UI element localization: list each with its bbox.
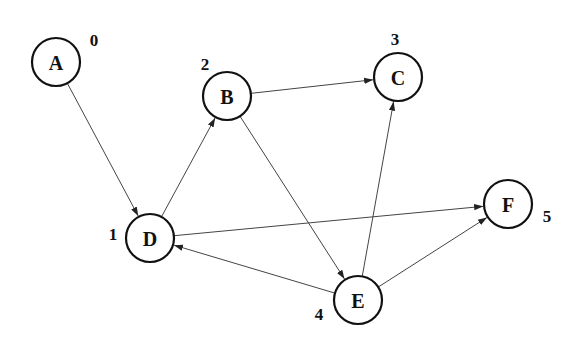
- edge-e-to-f: [378, 217, 487, 287]
- node-order-number: 4: [315, 305, 324, 324]
- node-label: E: [351, 290, 364, 312]
- node-label: B: [220, 86, 233, 108]
- node-a: A0: [32, 31, 98, 87]
- node-b: B2: [201, 55, 251, 121]
- edge-e-to-d: [174, 245, 335, 293]
- node-label: A: [49, 52, 64, 74]
- edge-d-to-f: [174, 206, 483, 235]
- node-d: D1: [109, 214, 174, 262]
- edge-b-to-c: [251, 80, 373, 94]
- edge-e-to-c: [362, 102, 393, 277]
- node-label: F: [502, 194, 514, 216]
- edge-d-to-b: [161, 118, 215, 217]
- edges-layer: [67, 80, 487, 293]
- node-label: C: [391, 67, 405, 89]
- node-order-number: 5: [543, 207, 552, 226]
- node-c: C3: [374, 30, 422, 102]
- node-order-number: 2: [201, 55, 210, 74]
- edge-b-to-e: [240, 116, 345, 279]
- node-order-number: 0: [90, 31, 99, 50]
- node-label: D: [143, 228, 157, 250]
- directed-graph-diagram: A0B2C3D1E4F5: [0, 0, 577, 342]
- node-f: F5: [484, 180, 551, 228]
- node-order-number: 1: [109, 225, 118, 244]
- edge-a-to-d: [67, 83, 138, 216]
- node-order-number: 3: [391, 30, 400, 49]
- node-e: E4: [315, 276, 382, 324]
